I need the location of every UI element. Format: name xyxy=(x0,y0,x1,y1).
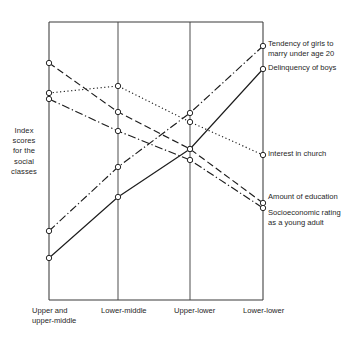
data-point xyxy=(115,128,120,133)
x-tick-upper-and-upper-middle: Upper and upper-middle xyxy=(32,306,76,325)
data-point xyxy=(46,90,51,95)
x-tick-line-1: Upper-lower xyxy=(174,306,215,316)
data-point xyxy=(260,66,265,71)
chart-figure: Index scores for the social classes xyxy=(0,0,352,344)
series-line-amount-of-education xyxy=(49,63,263,203)
data-point xyxy=(46,255,51,260)
y-axis-label-line-4: social xyxy=(2,157,46,167)
series-label-tendency-girls-marry: Tendency of girls to marry under age 20 xyxy=(268,39,334,59)
series-label-delinquency-of-boys: Delinquency of boys xyxy=(268,63,336,73)
series-label-line-1: Amount of education xyxy=(268,192,338,202)
data-point xyxy=(115,194,120,199)
data-point xyxy=(187,110,192,115)
data-point xyxy=(115,164,120,169)
x-tick-line-1: Upper and xyxy=(32,306,76,316)
x-tick-lower-lower: Lower-lower xyxy=(243,306,284,316)
series-label-line-2: marry under age 20 xyxy=(268,49,334,59)
series-line-interest-in-church xyxy=(49,86,263,155)
series-label-socioeconomic-rating: Socioeconomic rating as a young adult xyxy=(268,208,341,228)
data-point xyxy=(260,152,265,157)
series-label-line-2: as a young adult xyxy=(268,218,341,228)
data-point xyxy=(260,205,265,210)
series-line-delinquency-of-boys xyxy=(49,69,263,258)
data-point xyxy=(46,60,51,65)
y-axis-label: Index scores for the social classes xyxy=(2,126,46,177)
series-label-line-1: Tendency of girls to xyxy=(268,39,334,49)
data-point xyxy=(187,157,192,162)
series-label-line-1: Socioeconomic rating xyxy=(268,208,341,218)
series-line-socioeconomic-rating xyxy=(49,99,263,208)
data-point xyxy=(46,228,51,233)
data-point xyxy=(46,96,51,101)
data-point xyxy=(187,146,192,151)
x-tick-line-2: upper-middle xyxy=(32,316,76,326)
series-label-line-1: Delinquency of boys xyxy=(268,63,336,73)
data-point xyxy=(115,83,120,88)
x-tick-lower-middle: Lower-middle xyxy=(101,306,147,316)
data-point xyxy=(115,109,120,114)
data-point xyxy=(260,43,265,48)
series-label-amount-of-education: Amount of education xyxy=(268,192,338,202)
series-label-interest-in-church: Interest in church xyxy=(268,149,326,159)
x-tick-line-1: Lower-middle xyxy=(101,306,147,316)
x-tick-line-1: Lower-lower xyxy=(243,306,284,316)
x-tick-upper-lower: Upper-lower xyxy=(174,306,215,316)
series-label-line-1: Interest in church xyxy=(268,149,326,159)
y-axis-label-line-5: classes xyxy=(2,167,46,177)
y-axis-label-line-1: Index xyxy=(2,126,46,136)
y-axis-label-line-2: scores xyxy=(2,136,46,146)
series-line-tendency-girls-marry xyxy=(49,46,263,231)
y-axis-label-line-3: for the xyxy=(2,146,46,156)
data-point xyxy=(187,119,192,124)
